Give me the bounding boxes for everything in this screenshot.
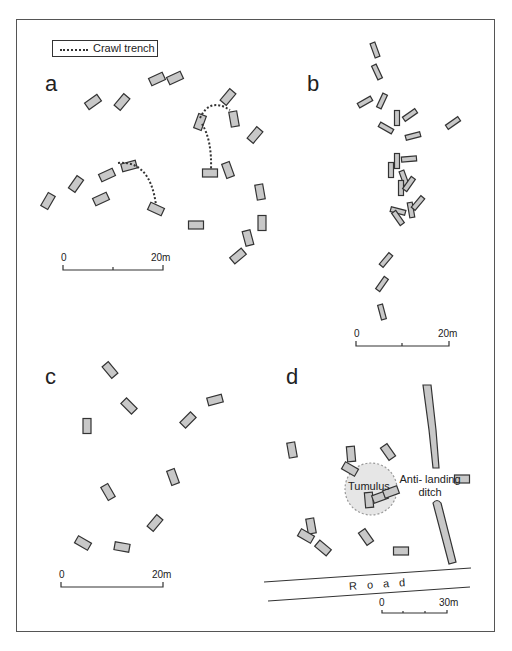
panel-c-features	[75, 362, 224, 553]
foxhole	[242, 230, 254, 247]
scale-d-start: 0	[379, 597, 385, 608]
scale-bar-d	[382, 610, 447, 613]
scale-b-end: 20m	[438, 328, 457, 339]
foxhole	[258, 216, 266, 231]
ditch-label: Anti- landing ditch	[397, 473, 463, 498]
foxhole	[395, 154, 400, 169]
foxhole	[102, 362, 118, 379]
foxhole	[247, 127, 263, 144]
panel-label-b: b	[307, 73, 319, 95]
foxhole	[411, 196, 424, 211]
foxhole	[358, 529, 373, 546]
panel-label-c: c	[45, 366, 56, 388]
ditch-label-line1: Anti- landing	[397, 473, 463, 486]
foxhole	[207, 394, 224, 406]
ditch-label-line2: ditch	[397, 486, 463, 499]
anti-landing-ditch-south	[433, 501, 456, 565]
foxhole	[346, 446, 355, 462]
foxhole	[380, 444, 395, 461]
crawl-trench	[202, 124, 211, 170]
scale-c-end: 20m	[152, 569, 171, 580]
foxhole	[83, 419, 91, 434]
scale-d-end: 30m	[439, 597, 458, 608]
map-drawing	[0, 0, 512, 651]
foxhole	[395, 111, 400, 126]
foxhole	[389, 163, 394, 178]
scale-c-start: 0	[59, 569, 65, 580]
foxhole	[255, 184, 265, 200]
anti-landing-ditch-north	[423, 385, 439, 468]
foxhole	[378, 122, 393, 134]
foxhole	[364, 492, 373, 508]
foxhole	[189, 221, 204, 229]
foxhole	[402, 109, 417, 122]
foxhole	[394, 547, 409, 555]
foxhole	[147, 515, 163, 532]
foxhole	[114, 542, 130, 552]
foxhole	[114, 94, 130, 111]
scale-bar-c	[61, 582, 163, 587]
foxhole	[101, 484, 115, 501]
foxhole	[85, 94, 102, 109]
scale-a-start: 0	[61, 252, 67, 263]
foxhole	[315, 540, 332, 556]
foxhole	[167, 71, 184, 85]
foxhole	[378, 304, 387, 320]
foxhole	[230, 248, 247, 264]
foxhole	[445, 117, 460, 130]
foxhole	[149, 72, 166, 86]
foxhole	[377, 93, 388, 109]
foxhole	[180, 412, 196, 428]
figure: Crawl trench a b c d	[0, 0, 512, 651]
foxhole	[342, 462, 359, 476]
scale-b-start: 0	[354, 328, 360, 339]
foxhole	[401, 156, 416, 162]
foxhole	[75, 536, 92, 550]
scale-bar-b	[356, 341, 449, 346]
foxhole	[148, 202, 165, 216]
crawl-trenches	[118, 105, 230, 205]
foxhole	[372, 64, 383, 80]
scale-bar-a	[63, 265, 163, 270]
foxhole	[93, 192, 110, 206]
foxhole	[99, 168, 116, 182]
foxhole	[203, 169, 218, 177]
foxhole	[287, 442, 297, 458]
panel-label-a: a	[45, 73, 57, 95]
foxhole	[376, 276, 389, 291]
foxhole	[357, 96, 372, 108]
foxhole	[379, 253, 392, 268]
foxhole	[222, 162, 235, 179]
foxhole	[229, 111, 239, 127]
panel-b-features	[357, 42, 460, 320]
foxhole	[121, 398, 137, 414]
foxhole	[167, 469, 180, 486]
foxhole	[405, 132, 421, 141]
foxhole	[220, 89, 236, 106]
panel-a-features	[41, 71, 266, 264]
panel-label-d: d	[286, 366, 298, 388]
tumulus-label: Tumulus	[348, 480, 390, 493]
foxhole	[68, 176, 83, 193]
foxhole	[370, 42, 380, 58]
scale-a-end: 20m	[151, 252, 170, 263]
foxhole	[41, 193, 55, 210]
